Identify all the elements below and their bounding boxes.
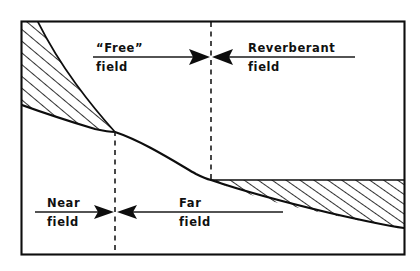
figure-container: “Free” field Reverberant field Near fiel… xyxy=(0,0,420,271)
reverberant-field-label-line1: Reverberant xyxy=(248,41,335,55)
reverberant-field-label-line2: field xyxy=(248,60,280,74)
sound-field-diagram: “Free” field Reverberant field Near fiel… xyxy=(0,0,420,271)
far-field-label-line2: field xyxy=(179,215,211,229)
near-field-label-line1: Near xyxy=(47,196,80,210)
free-field-label-line2: field xyxy=(96,60,128,74)
free-field-label-line1: “Free” xyxy=(96,41,143,55)
near-field-label-line2: field xyxy=(47,215,79,229)
far-field-label-line1: Far xyxy=(179,196,201,210)
